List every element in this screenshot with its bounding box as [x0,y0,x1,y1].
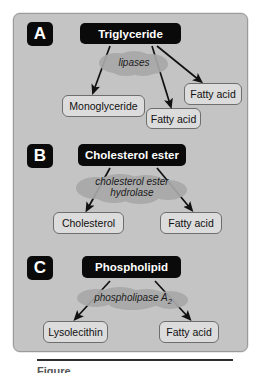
enzyme-line-1: cholesterol ester [95,176,168,187]
enzyme-label-lipases: lipases [96,57,172,68]
enzyme-name: phospholipase A [94,292,168,303]
figure-container: A Triglyceride lipases Monoglyceride Fat… [0,0,259,373]
arrow-a-1 [94,46,110,90]
enzyme-line-2: hydrolase [110,187,153,198]
enzyme-label-cholesterol-ester-hydrolase: cholesterol ester hydrolase [72,176,192,198]
enzyme-label-phospholipase-a2: phospholipase A2 [76,292,190,307]
enzyme-subscript: 2 [168,297,172,306]
